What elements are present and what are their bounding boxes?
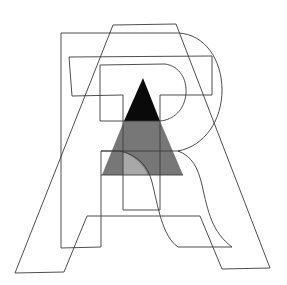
letterform-diagram [0,0,287,285]
shaded-triangle [102,78,183,175]
triangle-black-apex [124,78,160,121]
